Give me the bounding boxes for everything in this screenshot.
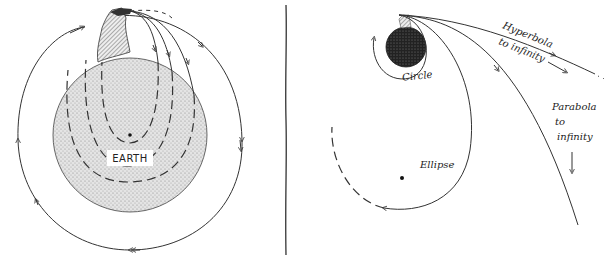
- ellipse-focus-dot: [400, 176, 404, 180]
- ellipse-orbit-dashed: [332, 127, 384, 208]
- circle-label: Circle: [402, 69, 433, 83]
- left-panel-newton-cannon: EARTH: [18, 8, 242, 250]
- parabola-label-line1: Parabola: [551, 101, 597, 112]
- ellipse-label: Ellipse: [419, 159, 454, 170]
- planet-disc: [386, 27, 426, 67]
- earth-center-dot: [128, 133, 132, 137]
- hyperbola-direction-arrow: [548, 62, 566, 72]
- parabola-label-line3: infinity: [557, 131, 593, 142]
- panel-divider: [286, 5, 287, 255]
- earth-label: EARTH: [112, 153, 148, 164]
- right-panel-orbit-types: Circle Ellipse Hyperbola to infinity Par…: [332, 15, 604, 225]
- mountain-icon: [97, 8, 130, 62]
- parabola-label-line2: to: [555, 116, 565, 127]
